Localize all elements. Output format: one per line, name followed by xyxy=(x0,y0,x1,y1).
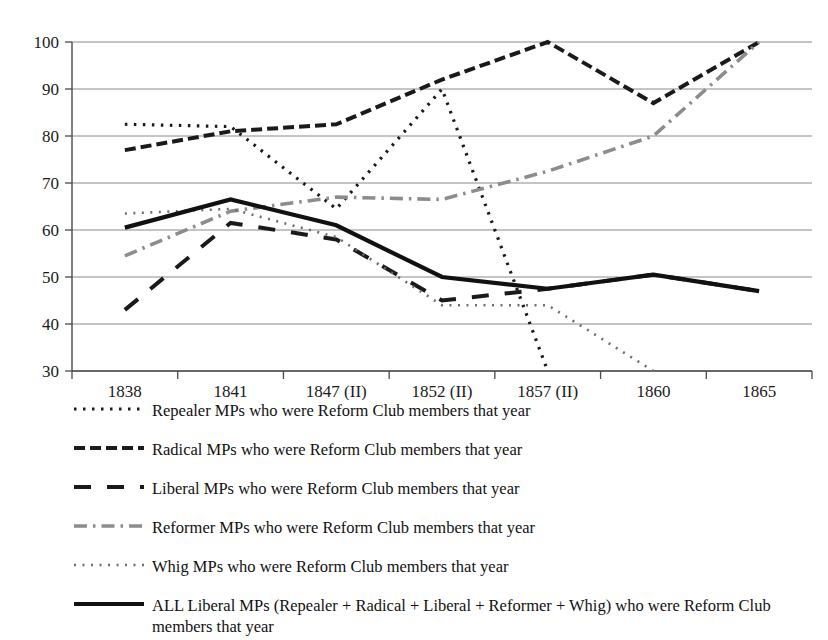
legend-label-radical: Radical MPs who were Reform Club members… xyxy=(152,439,522,460)
x-axis-labels: 183818411847 (II)1852 (II)1857 (II)18601… xyxy=(108,382,776,400)
data-series xyxy=(125,42,759,371)
series-line xyxy=(125,209,654,371)
legend-swatch-all-liberal xyxy=(72,597,146,617)
plot-area: 30405060708090100 183818411847 (II)1852 … xyxy=(0,0,828,400)
x-tick-label: 1857 (II) xyxy=(517,382,578,400)
series-line xyxy=(125,223,759,310)
x-tick-label: 1860 xyxy=(636,382,670,400)
legend-swatch-repealer xyxy=(72,402,146,422)
y-axis-labels: 30405060708090100 xyxy=(34,33,60,381)
legend-label-all-liberal: ALL Liberal MPs (Repealer + Radical + Li… xyxy=(152,595,802,637)
y-tick-label: 40 xyxy=(42,315,59,334)
y-tick-label: 50 xyxy=(42,268,59,287)
legend-label-whig: Whig MPs who were Reform Club members th… xyxy=(152,556,509,577)
x-tick-label: 1865 xyxy=(742,382,776,400)
x-tick-label: 1847 (II) xyxy=(306,382,367,400)
legend-swatch-liberal xyxy=(72,480,146,500)
x-tick-label: 1852 (II) xyxy=(412,382,473,400)
y-tick-label: 80 xyxy=(42,127,59,146)
series-line xyxy=(125,42,759,256)
chart-legend: Repealer MPs who were Reform Club member… xyxy=(72,400,812,640)
legend-item-reformer: Reformer MPs who were Reform Club member… xyxy=(72,517,812,539)
legend-item-whig: Whig MPs who were Reform Club members th… xyxy=(72,556,812,578)
series-line xyxy=(125,42,759,150)
gridlines xyxy=(65,42,812,371)
y-tick-label: 90 xyxy=(42,80,59,99)
y-tick-label: 100 xyxy=(34,33,60,52)
y-tick-label: 60 xyxy=(42,221,59,240)
legend-label-liberal: Liberal MPs who were Reform Club members… xyxy=(152,478,520,499)
x-tick-label: 1838 xyxy=(108,382,142,400)
line-chart: 30405060708090100 183818411847 (II)1852 … xyxy=(0,0,828,400)
legend-item-liberal: Liberal MPs who were Reform Club members… xyxy=(72,478,812,500)
legend-swatch-reformer xyxy=(72,519,146,539)
y-tick-label: 30 xyxy=(42,362,59,381)
legend-item-radical: Radical MPs who were Reform Club members… xyxy=(72,439,812,461)
y-tick-label: 70 xyxy=(42,174,59,193)
legend-label-repealer: Repealer MPs who were Reform Club member… xyxy=(152,400,530,421)
legend-swatch-whig xyxy=(72,558,146,578)
legend-label-reformer: Reformer MPs who were Reform Club member… xyxy=(152,517,535,538)
legend-swatch-radical xyxy=(72,441,146,461)
legend-item-all-liberal: ALL Liberal MPs (Repealer + Radical + Li… xyxy=(72,595,812,637)
legend-item-repealer: Repealer MPs who were Reform Club member… xyxy=(72,400,812,422)
x-tick-label: 1841 xyxy=(214,382,248,400)
